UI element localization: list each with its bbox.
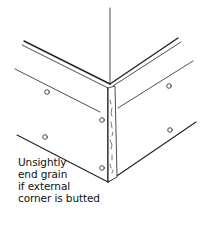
top-rim-right-inner bbox=[113, 42, 181, 86]
bottom-right-edge bbox=[108, 122, 196, 182]
caption-line: end grain bbox=[18, 168, 100, 180]
top-rim-left-outer bbox=[24, 41, 110, 84]
top-rim-left-inner bbox=[22, 45, 108, 88]
screw-hole-icon bbox=[168, 128, 173, 133]
caption-line: corner is butted bbox=[18, 192, 100, 204]
screw-hole-icon bbox=[43, 135, 48, 140]
screw-hole-icon bbox=[100, 118, 105, 123]
left-board-edge bbox=[15, 69, 100, 112]
screw-hole-icon bbox=[100, 166, 105, 171]
screw-hole-icon bbox=[167, 84, 172, 89]
screw-hole-icon bbox=[45, 90, 50, 95]
caption-line: if external bbox=[18, 180, 100, 192]
right-board-edge bbox=[118, 61, 193, 108]
caption-line: Unsightly bbox=[18, 156, 100, 168]
end-grain-caption: Unsightly end grain if external corner i… bbox=[18, 156, 100, 204]
